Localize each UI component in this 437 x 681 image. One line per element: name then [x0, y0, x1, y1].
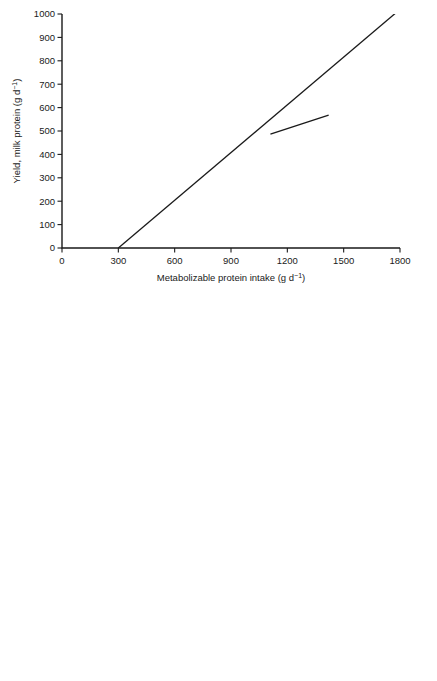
y-tick-label: 500: [39, 125, 55, 136]
top-chart-svg: 0300600900120015001800Metabolizable prot…: [0, 0, 437, 300]
plot-area: [118, 11, 398, 248]
y-tick-label: 1000: [34, 8, 55, 19]
y-axis: 01002003004005006007008009001000Yield, m…: [11, 8, 62, 253]
y-tick-label: 600: [39, 102, 55, 113]
x-tick-label: 1500: [333, 255, 354, 266]
y-tick-label: 400: [39, 149, 55, 160]
y-tick-label: 300: [39, 172, 55, 183]
trend-line-a: [270, 115, 328, 134]
y-tick-label: 700: [39, 79, 55, 90]
x-axis-title: Metabolizable protein intake (g d−1): [157, 272, 305, 283]
series-a: [270, 115, 328, 134]
y-tick-label: 200: [39, 196, 55, 207]
slope-0.68-line: [118, 11, 398, 248]
x-tick-label: 1200: [277, 255, 298, 266]
y-tick-label: 800: [39, 55, 55, 66]
x-tick-label: 300: [110, 255, 126, 266]
chart-panel-bottom: [0, 300, 437, 681]
y-axis-title: Yield, milk protein (g d−1): [11, 79, 22, 184]
bottom-chart-svg: [0, 300, 437, 681]
y-tick-label: 100: [39, 219, 55, 230]
plot-axes: [62, 14, 400, 248]
y-tick-label: 900: [39, 32, 55, 43]
x-axis: 0300600900120015001800Metabolizable prot…: [59, 248, 410, 283]
x-tick-label: 600: [167, 255, 183, 266]
y-tick-label: 0: [50, 242, 55, 253]
x-tick-label: 1800: [389, 255, 410, 266]
chart-panel-top: 0300600900120015001800Metabolizable prot…: [0, 0, 437, 300]
x-tick-label: 0: [59, 255, 64, 266]
x-tick-label: 900: [223, 255, 239, 266]
